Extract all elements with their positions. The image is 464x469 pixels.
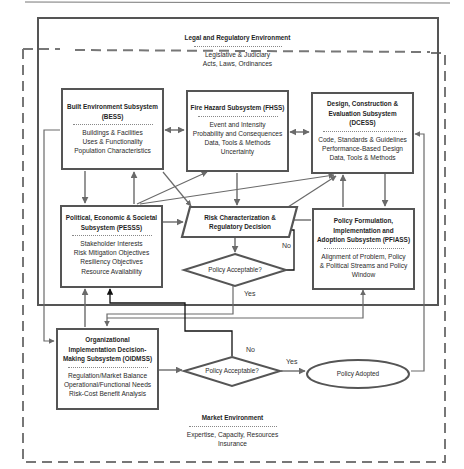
bess-item: Buildings & Facilities [65, 128, 160, 137]
market-environment-line: Expertise, Capacity, Resources [135, 430, 330, 440]
title-line: Subsystem (PESSS) [64, 223, 159, 233]
title-line: (DCESS) [315, 118, 410, 128]
pfiass-item: Window [316, 270, 411, 279]
decision-2-no-label: No [246, 346, 255, 353]
title-line: Implementation Decision- [60, 345, 155, 355]
legal-environment-line: Legislative & Judiciary [140, 50, 335, 60]
oidmss-item: Regulation/Market Balance [60, 371, 155, 380]
bess-item: Population Characteristics [65, 146, 160, 155]
market-environment-line: Insurance [135, 439, 330, 449]
risk-line: Regulatory Decision [209, 222, 271, 232]
dcess-item: Code, Standards & Guidelines [315, 135, 410, 144]
title-line: Policy Formulation, [316, 216, 411, 226]
oidmss-item: Operational/Functional Needs [60, 380, 155, 389]
divider [198, 116, 278, 117]
title-line: Adoption Subsystem (PFIASS) [316, 235, 411, 245]
bess-title: Built Environment Subsystem (BESS) [65, 102, 160, 121]
pfiass-box: Policy Formulation, Implementation and A… [312, 208, 415, 290]
title-line: Design, Construction & [315, 99, 410, 109]
pesss-item: Stakeholder Interests [64, 239, 159, 248]
title-line: Built Environment Subsystem [65, 102, 160, 112]
divider [189, 426, 277, 427]
market-environment-label: Market Environment Expertise, Capacity, … [135, 413, 330, 449]
title-line: (BESS) [65, 112, 160, 122]
divider [68, 367, 148, 368]
legal-environment-title: Legal and Regulatory Environment [140, 33, 335, 43]
pesss-item: Resiliency Objectives [64, 257, 159, 266]
oidmss-title: Organizational Implementation Decision- … [60, 335, 155, 364]
legal-environment-line: Acts, Laws, Ordinances [140, 59, 335, 69]
bess-box: Built Environment Subsystem (BESS) Build… [61, 88, 164, 170]
title-line: Implementation and [316, 226, 411, 236]
dcess-item: Data, Tools & Methods [315, 153, 410, 162]
risk-line: Risk Characterization & [204, 213, 276, 223]
market-environment-title: Market Environment [135, 413, 330, 423]
oidmss-item: Risk-Cost Benefit Analysis [60, 389, 155, 398]
fhss-box: Fire Hazard Subsystem (FHSS) Event and I… [186, 90, 289, 172]
title-line: Making Subsystem (OIDMSS) [60, 354, 155, 364]
pfiass-item: & Political Streams and Policy [316, 261, 411, 270]
oidmss-box: Organizational Implementation Decision- … [56, 328, 159, 410]
dcess-title: Design, Construction & Evaluation Subsys… [315, 99, 410, 128]
divider [324, 248, 404, 249]
title-line: Evaluation Subsystem [315, 109, 410, 119]
title-line: Political, Economic & Societal [64, 213, 159, 223]
decision-2-label: Policy Acceptable? [188, 363, 276, 379]
pfiass-item: Alignment of Problem, Policy [316, 252, 411, 261]
fhss-title: Fire Hazard Subsystem (FHSS) [190, 103, 285, 113]
pesss-title: Political, Economic & Societal Subsystem… [64, 213, 159, 232]
decision-2-yes-label: Yes [286, 358, 297, 365]
fhss-item: Data, Tools & Methods [190, 138, 285, 147]
fhss-item: Probability and Consequences [190, 129, 285, 138]
dcess-box: Design, Construction & Evaluation Subsys… [311, 92, 414, 174]
decision-1-no-label: No [282, 242, 291, 249]
dcess-item: Performance-Based Design [315, 144, 410, 153]
bess-item: Uses & Functionality [65, 137, 160, 146]
fhss-item: Event and Intensity [190, 120, 285, 129]
decision-1-yes-label: Yes [244, 290, 255, 297]
decision-1-label: Policy Acceptable? [190, 262, 280, 278]
divider [72, 235, 152, 236]
title-line: Fire Hazard Subsystem (FHSS) [190, 103, 285, 113]
pesss-item: Resource Availability [64, 267, 159, 276]
divider [194, 46, 282, 47]
pfiass-title: Policy Formulation, Implementation and A… [316, 216, 411, 245]
fhss-item: Uncertainty [190, 147, 285, 156]
risk-decision-label: Risk Characterization & Regulatory Decis… [186, 208, 294, 236]
divider [323, 131, 403, 132]
pesss-item: Risk Mitigation Objectives [64, 248, 159, 257]
divider [73, 124, 153, 125]
page-top-rule [25, 2, 450, 3]
pesss-box: Political, Economic & Societal Subsystem… [60, 205, 163, 288]
title-line: Organizational [60, 335, 155, 345]
legal-environment-label: Legal and Regulatory Environment Legisla… [140, 33, 335, 69]
policy-adopted-label: Policy Adopted [310, 366, 406, 382]
